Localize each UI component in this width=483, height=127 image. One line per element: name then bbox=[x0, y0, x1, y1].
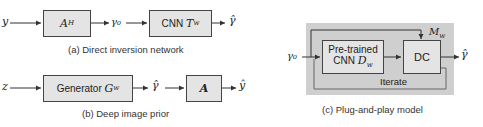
caption-c: (c) Plug-and-play model bbox=[322, 104, 423, 115]
input-z: z bbox=[2, 80, 8, 93]
input-gamma0: γ₀ bbox=[287, 50, 297, 61]
gamma0-label: γ₀ bbox=[111, 16, 121, 27]
iterate-label: Iterate bbox=[380, 76, 407, 87]
cnn-t-block: CNN Tw bbox=[149, 10, 212, 37]
data-consistency-block: DC bbox=[403, 40, 441, 74]
output-y-hat: ŷ bbox=[239, 79, 245, 92]
gamma-hat-label: γ̂ bbox=[152, 79, 159, 92]
pretrained-cnn-block: Pre-trained CNN Dw bbox=[322, 40, 384, 74]
caption-b: (b) Deep image prior bbox=[82, 108, 169, 119]
input-y: y bbox=[2, 15, 8, 28]
caption-a: (a) Direct inversion network bbox=[68, 44, 184, 55]
adjoint-operator-block: AH bbox=[43, 10, 91, 37]
generator-block: Generator Gw bbox=[43, 75, 133, 102]
output-gamma-hat: γ̂ bbox=[229, 14, 236, 27]
output-gamma-hat-c: γ̂ bbox=[461, 48, 468, 61]
model-label: Mw bbox=[429, 26, 445, 40]
forward-operator-block: A bbox=[186, 75, 222, 102]
